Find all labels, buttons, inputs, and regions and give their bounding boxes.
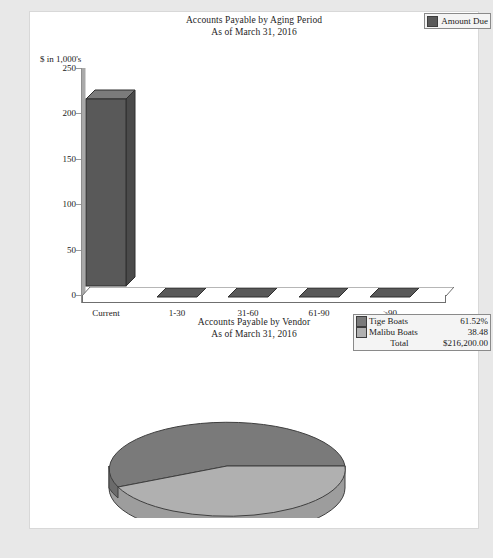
- bar-chart-title-line1: Accounts Payable by Aging Period: [186, 15, 322, 25]
- bar-over-90: [370, 288, 419, 298]
- legend-swatch-tige: [356, 316, 367, 327]
- y-tick-mark-50: [76, 250, 81, 251]
- y-tick-mark-0: [76, 295, 81, 296]
- legend-label-amount-due: Amount Due: [441, 16, 488, 27]
- bar-1-30: [157, 288, 206, 298]
- bar-chart: Accounts Payable by Aging Period As of M…: [30, 12, 478, 312]
- bar-chart-title: Accounts Payable by Aging Period As of M…: [30, 14, 478, 38]
- bar-current-3d: [86, 90, 135, 295]
- y-tick-mark-100: [76, 204, 81, 205]
- bar-plot-area: 250 200 150 100 50 0: [54, 68, 454, 306]
- legend-value-malibu: 38.48: [431, 327, 489, 338]
- legend-swatch-cell-total: [355, 338, 368, 349]
- y-tick-label-150: 150: [42, 155, 76, 164]
- legend-swatch-cell-malibu: [355, 327, 368, 338]
- bar-chart-title-line2: As of March 31, 2016: [30, 26, 478, 38]
- pie-chart-title-line1: Accounts Payable by Vendor: [198, 317, 310, 327]
- y-tick-mark-250: [76, 68, 81, 69]
- vendor-legend-row-total: Total $216,200.00: [355, 338, 489, 349]
- legend-label-tige: Tige Boats: [368, 316, 431, 327]
- y-tick-mark-150: [76, 159, 81, 160]
- legend-value-total: $216,200.00: [431, 338, 489, 349]
- vendor-legend-row-malibu: Malibu Boats 38.48: [355, 327, 489, 338]
- pie-chart: Accounts Payable by Vendor As of March 3…: [30, 312, 478, 528]
- report-page: Accounts Payable by Aging Period As of M…: [30, 12, 478, 528]
- legend-swatch-malibu: [356, 327, 367, 338]
- bar-chart-legend: Amount Due: [424, 13, 491, 29]
- y-tick-mark-200: [76, 113, 81, 114]
- vendor-legend-grid: Tige Boats 61.52% Malibu Boats 38.48 Tot…: [355, 316, 489, 349]
- y-tick-label-100: 100: [42, 200, 76, 209]
- legend-swatch-amount-due: [427, 16, 438, 27]
- legend-value-tige: 61.52%: [431, 316, 489, 327]
- y-tick-label-200: 200: [42, 109, 76, 118]
- y-tick-label-250: 250: [42, 64, 76, 73]
- bar-current: [86, 99, 126, 295]
- vendor-legend-table: Tige Boats 61.52% Malibu Boats 38.48 Tot…: [353, 314, 491, 351]
- pie-graphic: [82, 404, 372, 524]
- legend-label-malibu: Malibu Boats: [368, 327, 431, 338]
- pie-3d-svg: [82, 404, 372, 524]
- bar-61-90: [299, 288, 348, 298]
- y-tick-label-50: 50: [42, 246, 76, 255]
- page-footer-strip: [30, 518, 478, 528]
- legend-label-total: Total: [368, 338, 431, 349]
- y-tick-label-0: 0: [42, 291, 76, 300]
- vendor-legend-row-tige: Tige Boats 61.52%: [355, 316, 489, 327]
- bar-31-60: [228, 288, 277, 298]
- legend-swatch-cell-tige: [355, 316, 368, 327]
